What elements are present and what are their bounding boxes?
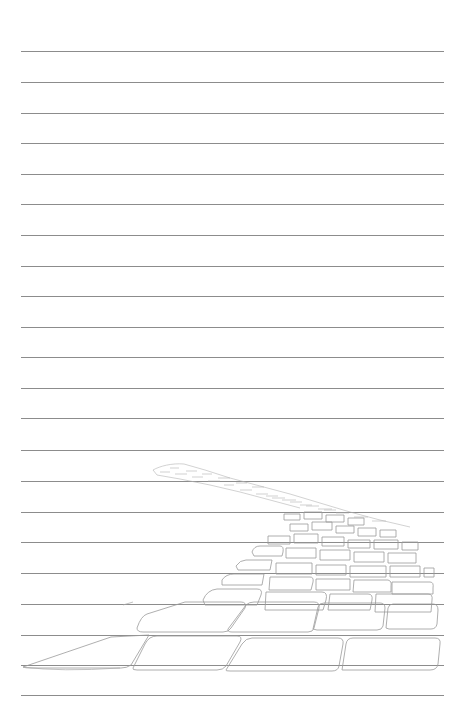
cobblestone-path-illustration [0, 0, 466, 727]
path-far-section [153, 464, 410, 527]
lined-paper-page [0, 0, 466, 727]
path-near-section [23, 574, 440, 671]
path-mid-section [236, 512, 434, 577]
